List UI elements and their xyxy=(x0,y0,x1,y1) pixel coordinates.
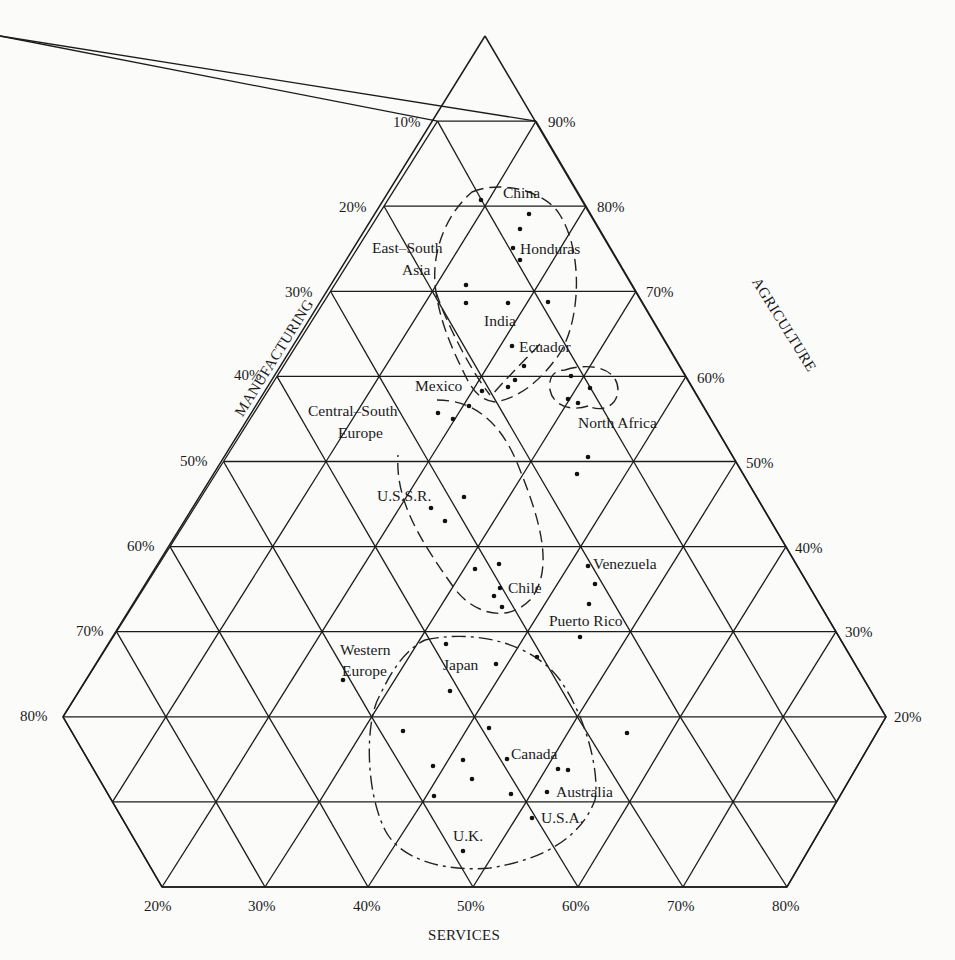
cluster-boundaries xyxy=(369,187,618,869)
data-point xyxy=(588,386,593,391)
data-point xyxy=(569,374,574,379)
grid-diagonal-line xyxy=(273,547,322,632)
data-point xyxy=(506,385,511,390)
grid-diagonal-line xyxy=(733,717,783,802)
data-point xyxy=(461,849,466,854)
data-point xyxy=(462,495,467,500)
data-point xyxy=(530,816,535,821)
country-label: Western xyxy=(340,641,391,658)
data-point xyxy=(566,397,571,402)
data-point xyxy=(511,246,516,251)
agriculture-tick-label: 90% xyxy=(548,114,576,130)
data-point xyxy=(497,562,502,567)
grid-diagonal-line xyxy=(528,632,578,717)
agriculture-tick-label: 40% xyxy=(795,540,823,556)
country-label: Puerto Rico xyxy=(549,612,623,629)
agriculture-tick-label: 60% xyxy=(697,370,725,386)
grid-diagonal-line xyxy=(170,462,224,547)
grid-diagonal-line xyxy=(326,462,375,547)
manufacturing-tick-label: 10% xyxy=(393,114,421,130)
grid-diagonal-line xyxy=(162,802,216,887)
grid-diagonal-line xyxy=(733,547,786,632)
grid-diagonal-line xyxy=(425,632,475,717)
grid-diagonal-line xyxy=(636,291,686,376)
country-label: Europe xyxy=(342,662,387,679)
services-axis-title: SERVICES xyxy=(428,927,500,943)
grid-diagonal-line xyxy=(423,717,475,802)
grid-diagonal-line xyxy=(219,632,268,717)
grid-diagonal-line xyxy=(63,717,113,802)
data-point xyxy=(432,794,437,799)
data-point xyxy=(546,300,551,305)
data-point xyxy=(535,655,540,660)
data-point xyxy=(505,757,510,762)
grid-diagonal-line xyxy=(473,802,526,887)
data-point xyxy=(545,790,550,795)
data-point xyxy=(436,411,441,416)
grid-diagonal-line xyxy=(219,547,272,632)
data-point xyxy=(578,635,583,640)
data-point xyxy=(444,642,449,647)
labels: 10%20%30%40%50%60%70%80%90%80%70%60%50%4… xyxy=(20,114,922,943)
data-point xyxy=(527,212,532,217)
agriculture-tick-label: 50% xyxy=(746,455,774,471)
grid-diagonal-line xyxy=(475,632,528,717)
data-point xyxy=(479,198,484,203)
grid-diagonal-line xyxy=(630,717,681,802)
data-point xyxy=(480,389,485,394)
grid-diagonal-line xyxy=(423,802,473,887)
country-label: U.S.A. xyxy=(541,809,584,826)
grid-diagonal-line xyxy=(216,717,269,802)
data-point xyxy=(500,605,505,610)
grid-diagonal-line xyxy=(680,717,733,802)
grid-diagonal-line xyxy=(578,802,630,887)
data-point xyxy=(518,258,523,263)
grid-diagonal-line xyxy=(683,547,733,632)
country-label: Mexico xyxy=(415,377,463,394)
manufacturing-tick-label: 30% xyxy=(285,284,313,300)
data-point xyxy=(443,519,448,524)
grid-diagonal-line xyxy=(577,632,630,717)
data-point xyxy=(593,582,598,587)
grid-diagonal-line xyxy=(375,462,428,547)
data-point xyxy=(464,301,469,306)
country-label: Canada xyxy=(511,745,558,762)
grid-diagonal-line xyxy=(584,291,636,376)
north-africa-boundary xyxy=(550,367,618,409)
grid-diagonal-line xyxy=(117,547,171,632)
grid-diagonal-line xyxy=(837,717,887,802)
grid-diagonal-line xyxy=(787,802,837,887)
grid-diagonal-line xyxy=(680,632,733,717)
country-label: Ecuador xyxy=(519,338,571,355)
grid-diagonal-line xyxy=(432,291,481,376)
grid-diagonal-line xyxy=(372,717,423,802)
grid-diagonal-line xyxy=(273,462,326,547)
data-point xyxy=(431,764,436,769)
grid-diagonal-line xyxy=(733,802,787,887)
country-label: U.K. xyxy=(453,827,483,844)
grid-diagonal-line xyxy=(379,291,432,376)
data-point xyxy=(506,301,511,306)
services-tick-label: 60% xyxy=(562,898,590,914)
country-label: Europe xyxy=(338,424,383,441)
grid-diagonal-line xyxy=(319,802,368,887)
grid-diagonal-line xyxy=(534,291,584,376)
data-point xyxy=(576,401,581,406)
data-point xyxy=(513,378,518,383)
manufacturing-tick-label: 20% xyxy=(339,199,367,215)
data-point xyxy=(510,344,515,349)
data-point xyxy=(587,602,592,607)
grid-diagonal-line xyxy=(634,462,684,547)
grid-diagonal-line xyxy=(482,376,532,461)
agriculture-tick-label: 20% xyxy=(894,709,922,725)
grid-diagonal-line xyxy=(531,462,581,547)
grid-diagonal-line xyxy=(683,462,736,547)
data-point xyxy=(470,777,475,782)
data-point xyxy=(467,404,472,409)
grid-diagonal-line xyxy=(586,206,636,291)
country-label: Venezuela xyxy=(593,555,657,572)
grid-diagonal-line xyxy=(331,291,380,376)
services-tick-label: 20% xyxy=(144,898,172,914)
grid-diagonal-line xyxy=(0,36,438,121)
data-point xyxy=(498,586,503,591)
